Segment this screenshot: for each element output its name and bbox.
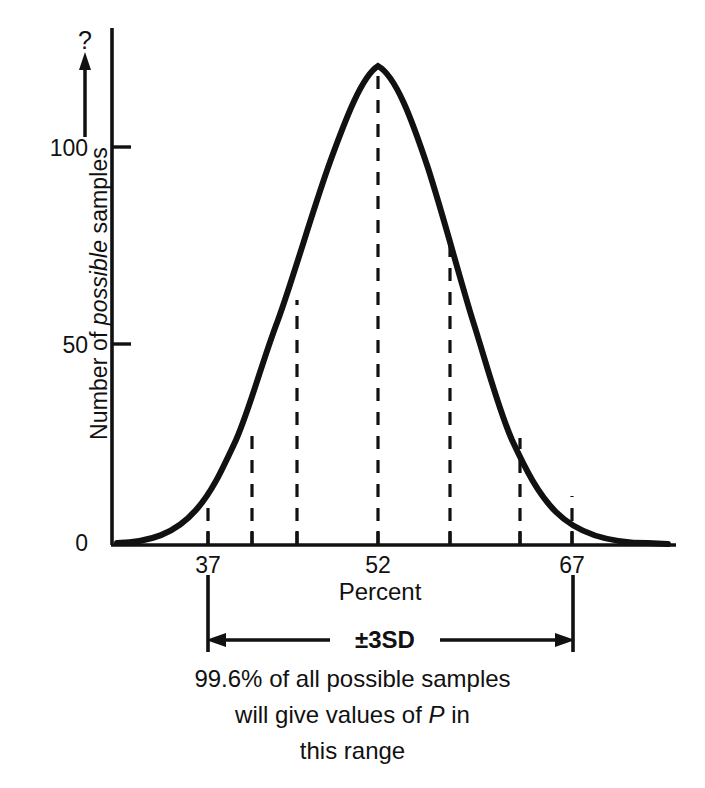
caption-line-1-text: 99.6% of all possible samples: [194, 665, 510, 692]
x-axis-ticks: [208, 531, 572, 545]
y-axis-open-arrow-icon: [79, 52, 91, 137]
caption-line-2-suffix: in: [445, 701, 470, 728]
sd-dashed-lines: [208, 66, 572, 545]
caption-line-2-prefix: will give values of: [235, 701, 428, 728]
caption-line-3: this range: [0, 734, 705, 768]
y-axis-ticks: [112, 147, 131, 344]
range-bracket-label: ±3SD: [330, 626, 440, 654]
distribution-figure: Number of possible samples ? 100 50 0 37…: [0, 0, 705, 788]
caption-line-2: will give values of P in: [0, 698, 705, 732]
caption-line-2-italic: P: [429, 701, 445, 728]
caption-line-3-text: this range: [300, 737, 405, 764]
caption-line-1: 99.6% of all possible samples: [0, 662, 705, 696]
distribution-curve: [117, 66, 668, 544]
